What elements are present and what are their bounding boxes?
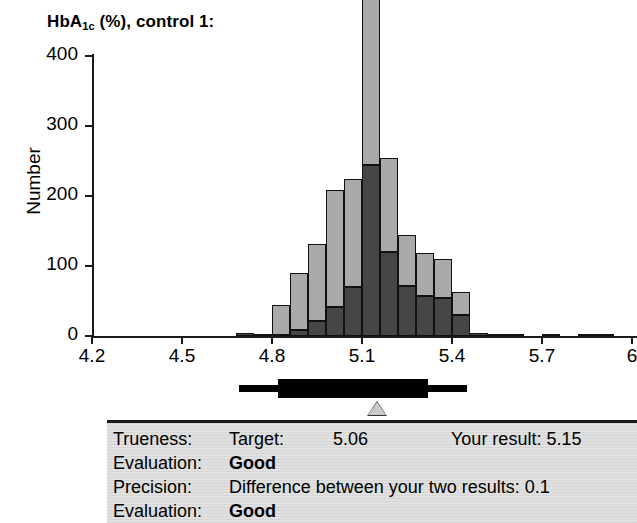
results-row-text: Target: — [229, 429, 284, 450]
histogram-bar — [398, 235, 416, 336]
range-bar-inner — [278, 379, 428, 398]
bar-segment-light — [434, 259, 452, 298]
bar-segment-dark — [254, 334, 272, 336]
y-tick-mark — [85, 195, 92, 197]
histogram-bar — [578, 335, 596, 336]
bar-segment-light — [452, 292, 470, 315]
histogram-bar — [506, 335, 524, 336]
x-tick-label: 4.5 — [152, 345, 212, 367]
bar-segment-dark — [506, 334, 524, 336]
histogram-bar — [542, 335, 560, 336]
histogram-bar — [416, 253, 434, 336]
bar-segment-dark — [596, 334, 614, 336]
x-tick-mark — [451, 336, 453, 344]
your-result-marker — [368, 402, 386, 415]
results-row-value: 5.06 — [333, 429, 368, 450]
y-tick-mark — [85, 125, 92, 127]
results-row: Evaluation:Good — [107, 453, 637, 475]
histogram-bar — [452, 292, 470, 336]
histogram-bar — [272, 305, 290, 336]
histogram-bar — [326, 190, 344, 336]
histogram-bar — [596, 335, 614, 336]
bar-segment-dark — [362, 165, 380, 337]
y-tick-label: 200 — [38, 183, 78, 205]
bar-segment-dark — [326, 307, 344, 336]
x-tick-label: 5.1 — [332, 345, 392, 367]
x-tick-mark — [541, 336, 543, 344]
y-tick-mark — [85, 265, 92, 267]
results-row-text: Difference between your two results: 0.1 — [229, 477, 550, 498]
y-tick-label: 100 — [38, 253, 78, 275]
x-tick-mark — [271, 336, 273, 344]
bar-segment-light — [272, 305, 290, 334]
acceptance-range-indicator — [0, 374, 637, 414]
histogram-bar — [290, 273, 308, 336]
bar-segment-dark — [542, 334, 560, 336]
bar-segment-dark — [398, 286, 416, 336]
x-tick-mark — [631, 336, 633, 344]
y-tick-mark — [85, 55, 92, 57]
histogram-report-page: HbA1c (%), control 1: Number 01002003004… — [0, 0, 637, 523]
results-row-your-result: Your result: 5.15 — [451, 429, 581, 450]
bar-segment-dark — [272, 334, 290, 336]
x-axis-line — [92, 336, 637, 338]
bar-segment-light — [398, 235, 416, 285]
bar-segment-light — [362, 0, 380, 165]
x-tick-label: 5.4 — [422, 345, 482, 367]
x-tick-label: 4.2 — [62, 345, 122, 367]
y-axis-label: Number — [23, 121, 45, 241]
x-tick-mark — [181, 336, 183, 344]
results-row-label: Evaluation: — [113, 453, 202, 474]
histogram-bar — [362, 0, 380, 336]
results-row: Precision:Difference between your two re… — [107, 477, 637, 499]
results-row-text: Good — [229, 453, 276, 474]
bar-segment-light — [344, 179, 362, 287]
y-axis-line — [92, 54, 94, 338]
y-tick-label: 300 — [38, 113, 78, 135]
results-row-text: Good — [229, 501, 276, 522]
x-tick-mark — [91, 336, 93, 344]
bar-segment-light — [416, 253, 434, 296]
bar-segment-dark — [380, 252, 398, 336]
y-tick-label: 400 — [38, 43, 78, 65]
x-tick-label: 4.8 — [242, 345, 302, 367]
bar-segment-light — [380, 158, 398, 252]
bar-segment-dark — [236, 333, 254, 337]
x-tick-label: 5.7 — [512, 345, 572, 367]
bar-segment-dark — [290, 330, 308, 336]
y-tick-label: 0 — [38, 323, 78, 345]
results-row: Trueness:Target:5.06Your result: 5.15 — [107, 429, 637, 451]
results-panel: Trueness:Target:5.06Your result: 5.15Eva… — [107, 420, 637, 523]
histogram-bar — [488, 334, 506, 336]
bar-segment-dark — [434, 298, 452, 337]
bar-segment-dark — [470, 333, 488, 336]
x-tick-label: 6 — [602, 345, 637, 367]
x-tick-mark — [361, 336, 363, 344]
results-row-label: Precision: — [113, 477, 192, 498]
histogram-bar — [344, 179, 362, 336]
results-row: Evaluation:Good — [107, 501, 637, 523]
results-row-label: Evaluation: — [113, 501, 202, 522]
histogram-bar — [308, 244, 326, 336]
bar-segment-light — [326, 190, 344, 307]
bar-segment-light — [308, 244, 326, 321]
bar-segment-dark — [308, 321, 326, 336]
bar-segment-dark — [452, 315, 470, 336]
results-row-label: Trueness: — [113, 429, 192, 450]
histogram-bar — [236, 333, 254, 337]
bar-segment-light — [290, 273, 308, 330]
histogram-bar — [380, 158, 398, 336]
bar-segment-dark — [578, 334, 596, 336]
histogram-bar — [254, 335, 272, 336]
bar-segment-dark — [344, 287, 362, 336]
histogram-bar — [470, 333, 488, 336]
histogram-chart: Number 0100200300400 4.24.54.85.15.45.76 — [0, 0, 637, 370]
bar-segment-dark — [416, 296, 434, 336]
bar-segment-dark — [488, 334, 506, 336]
histogram-bar — [434, 259, 452, 336]
